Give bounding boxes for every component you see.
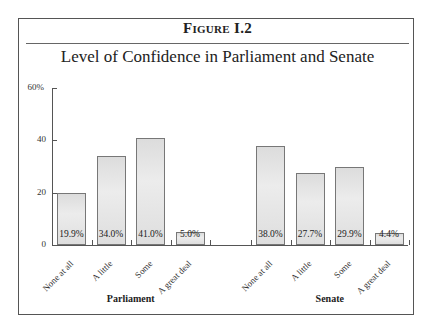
x-tick: [370, 240, 371, 245]
y-axis: [52, 88, 53, 245]
chart-title: Level of Confidence in Parliament and Se…: [0, 47, 435, 67]
y-tick: [52, 140, 57, 141]
title-divider: [26, 43, 409, 44]
x-tick: [251, 240, 252, 245]
x-tick: [171, 240, 172, 245]
y-tick: [52, 245, 57, 246]
y-tick-label: 40: [16, 134, 46, 144]
x-axis: [52, 245, 408, 246]
bar-value-label: 29.9%: [331, 229, 368, 239]
bar-value-label: 4.4%: [371, 229, 408, 239]
x-tick: [131, 240, 132, 245]
y-tick-label: 0: [16, 239, 46, 249]
x-tick: [92, 240, 93, 245]
y-tick-label: 60%: [14, 82, 44, 92]
group-label-senate: Senate: [270, 293, 390, 304]
group-label-parliament: Parliament: [71, 293, 191, 304]
figure-label: Figure I.2: [0, 20, 435, 37]
x-tick: [291, 240, 292, 245]
bar-value-label: 38.0%: [252, 229, 289, 239]
bar-value-label: 41.0%: [132, 229, 169, 239]
bar-value-label: 27.7%: [292, 229, 329, 239]
bar-value-label: 5.0%: [172, 229, 209, 239]
y-tick: [52, 88, 57, 89]
x-tick: [409, 240, 410, 245]
x-tick: [330, 240, 331, 245]
x-tick: [52, 240, 53, 245]
bar-value-label: 19.9%: [53, 229, 90, 239]
y-tick-label: 20: [16, 187, 46, 197]
x-tick: [210, 240, 211, 245]
bar-value-label: 34.0%: [93, 229, 130, 239]
